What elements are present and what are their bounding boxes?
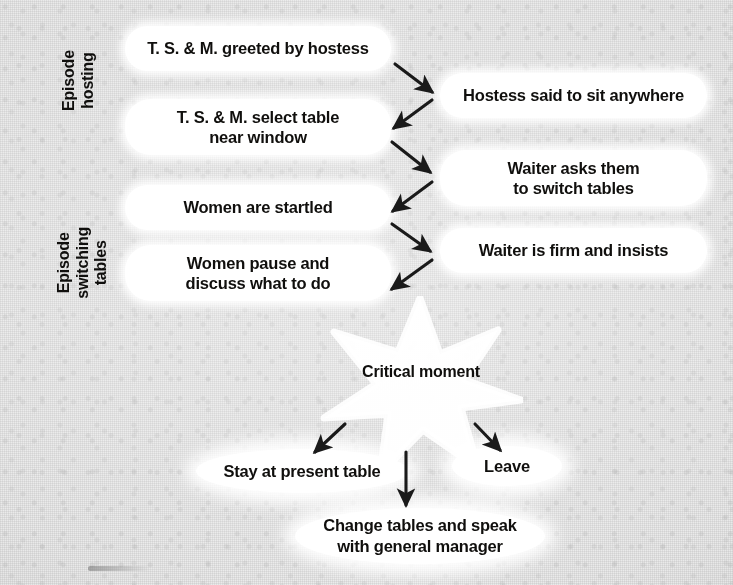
node-ts-m-greeted[interactable]: T. S. & M. greeted by hostess: [125, 26, 391, 71]
node-waiter-firm-insists-line-1: Waiter is firm and insists: [479, 240, 669, 260]
node-waiter-firm-insists[interactable]: Waiter is firm and insists: [440, 228, 707, 273]
arrow-greeted-to-hostess: [395, 64, 432, 92]
node-waiter-asks-switch[interactable]: Waiter asks them to switch tables: [440, 150, 707, 206]
arrow-waiter-to-startled: [393, 182, 432, 211]
outcome-leave[interactable]: Leave: [452, 446, 562, 486]
episode-label-hosting: Episode hosting: [60, 16, 97, 146]
node-hostess-sit-anywhere-line-1: Hostess said to sit anywhere: [463, 85, 684, 105]
node-women-pause-discuss[interactable]: Women pause and discuss what to do: [125, 245, 391, 301]
critical-moment-label: Critical moment: [340, 363, 502, 381]
arrow-firm-to-pause: [392, 260, 432, 289]
node-ts-m-select-table-line-1: T. S. & M. select table: [177, 107, 339, 127]
node-women-pause-discuss-line-1: Women pause and: [186, 253, 331, 273]
node-ts-m-select-table-line-2: near window: [177, 127, 339, 147]
outcome-leave-line-1: Leave: [484, 456, 530, 477]
episode-switching-line-2: switching: [74, 188, 93, 338]
node-ts-m-greeted-line-1: T. S. & M. greeted by hostess: [147, 38, 369, 58]
cropped-caption-smudge: [88, 566, 150, 571]
outcome-change-tables-line-2: with general manager: [323, 536, 516, 557]
node-ts-m-select-table[interactable]: T. S. & M. select table near window: [125, 99, 391, 155]
node-women-pause-discuss-line-2: discuss what to do: [186, 273, 331, 293]
arrow-startled-to-firm: [392, 224, 430, 251]
episode-switching-line-1: Episode: [55, 188, 74, 338]
outcome-change-tables-line-1: Change tables and speak: [323, 515, 516, 536]
episode-flow-diagram: Critical moment Episode hosting Episode …: [0, 0, 733, 585]
node-women-startled[interactable]: Women are startled: [125, 185, 391, 230]
node-waiter-asks-switch-line-2: to switch tables: [508, 178, 640, 198]
episode-hosting-line-1: Episode: [60, 16, 79, 146]
episode-switching-line-3: tables: [92, 188, 111, 338]
arrow-select-to-waiter: [392, 142, 430, 172]
node-women-startled-line-1: Women are startled: [183, 197, 332, 217]
outcome-stay-at-present-table[interactable]: Stay at present table: [196, 449, 408, 493]
node-hostess-sit-anywhere[interactable]: Hostess said to sit anywhere: [440, 73, 707, 118]
node-waiter-asks-switch-line-1: Waiter asks them: [508, 158, 640, 178]
episode-label-switching-tables: Episode switching tables: [55, 188, 111, 338]
outcome-change-tables-speak-manager[interactable]: Change tables and speak with general man…: [295, 508, 545, 564]
outcome-stay-line-1: Stay at present table: [223, 461, 380, 482]
arrow-hostess-to-select: [394, 100, 432, 128]
episode-hosting-line-2: hosting: [79, 16, 98, 146]
